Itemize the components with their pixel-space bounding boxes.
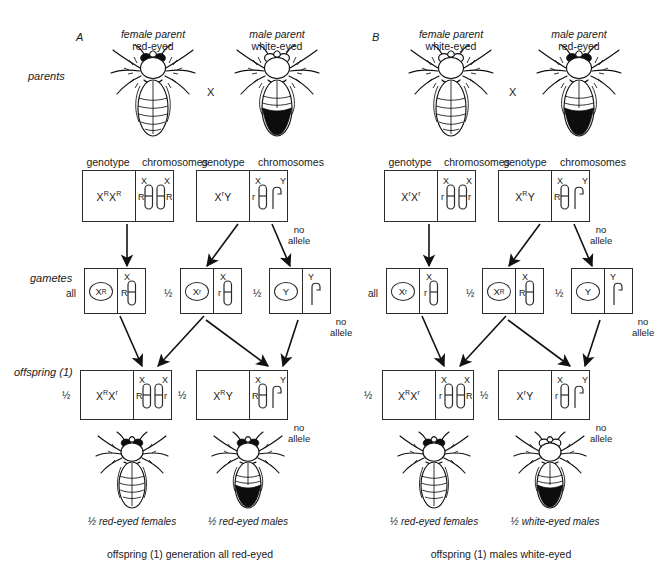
svg-text:R: R — [466, 391, 473, 401]
figure-canvas: parents gametes offspring (1) A female p… — [0, 0, 662, 580]
panel-b-offspring-box-0: XRXr X r X R — [382, 370, 474, 420]
chromosomes-cell: X r Y — [551, 371, 591, 419]
panel-b-offspring-caption-0: ½ red-eyed females — [374, 516, 494, 527]
svg-text:Y: Y — [582, 375, 588, 385]
genotype-cell: XrY — [499, 371, 551, 419]
panel-b-offspring-fly-1 — [510, 440, 590, 512]
svg-text:X: X — [441, 375, 447, 385]
no-allele-line2: allele — [590, 433, 612, 444]
svg-text:X: X — [557, 375, 563, 385]
panel-b-summary: offspring (1) males white-eyed — [356, 548, 646, 560]
genotype-cell: XRXr — [383, 371, 435, 419]
panel-b: B female parent white-eyed male parent r… — [0, 0, 662, 580]
panel-b-offspring-box-1: XrY X r Y — [498, 370, 590, 420]
panel-b-offspring-fly-0 — [394, 440, 474, 512]
svg-text:r: r — [555, 391, 558, 401]
genotype-text: XRXr — [398, 389, 420, 402]
genotype-text: XrY — [517, 389, 534, 402]
no-allele-line1: no — [590, 422, 612, 433]
panel-b-no-allele-offspring: no allele — [590, 422, 612, 444]
panel-b-offspring-1-fraction: ½ — [480, 390, 488, 401]
panel-b-offspring-0-fraction: ½ — [364, 390, 372, 401]
chromosomes-cell: X r X R — [435, 371, 475, 419]
panel-b-offspring-caption-1: ½ white-eyed males — [492, 516, 618, 527]
svg-text:r: r — [439, 391, 442, 401]
svg-text:X: X — [464, 375, 470, 385]
